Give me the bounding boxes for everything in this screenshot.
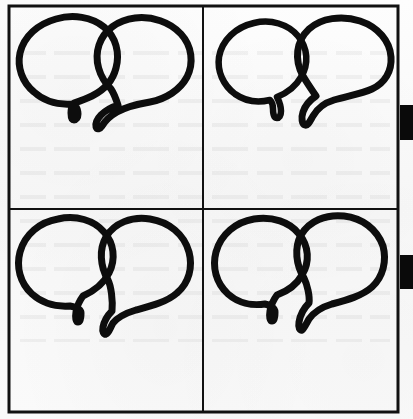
speech-bubble-right (297, 18, 391, 125)
speech-bubble-right (297, 216, 385, 331)
edge-marker-upper (400, 105, 413, 140)
frame-group (9, 6, 398, 412)
edge-marker-lower (400, 255, 413, 289)
speech-bubble-right (101, 218, 190, 334)
speech-bubble-left (19, 218, 114, 322)
panel-bottom-right (215, 216, 385, 331)
edge-markers-group (400, 105, 413, 289)
panel-top-right (219, 18, 391, 125)
figure-artwork (0, 0, 413, 419)
scanned-page (0, 0, 413, 419)
speech-bubble-left (219, 22, 307, 118)
panel-bottom-left (19, 218, 191, 335)
panel-top-left (19, 17, 191, 129)
speech-bubble-left (215, 218, 308, 321)
